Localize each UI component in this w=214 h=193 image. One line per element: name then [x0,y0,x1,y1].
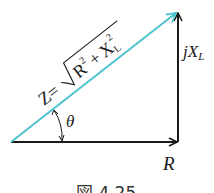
figure-caption: 図 4.25 [76,183,136,193]
impedance-triangle-diagram: θ R jXL Z= R2+XL2 図 4.25 [0,0,214,193]
angle-label: θ [66,112,74,131]
angle-arc [54,110,62,141]
reactance-label: jXL [181,42,204,62]
angle-arrowhead-bottom [59,135,64,141]
impedance-vector [11,13,176,142]
impedance-formula: Z= R2+XL2 [30,21,133,110]
resistance-label: R [162,153,175,174]
